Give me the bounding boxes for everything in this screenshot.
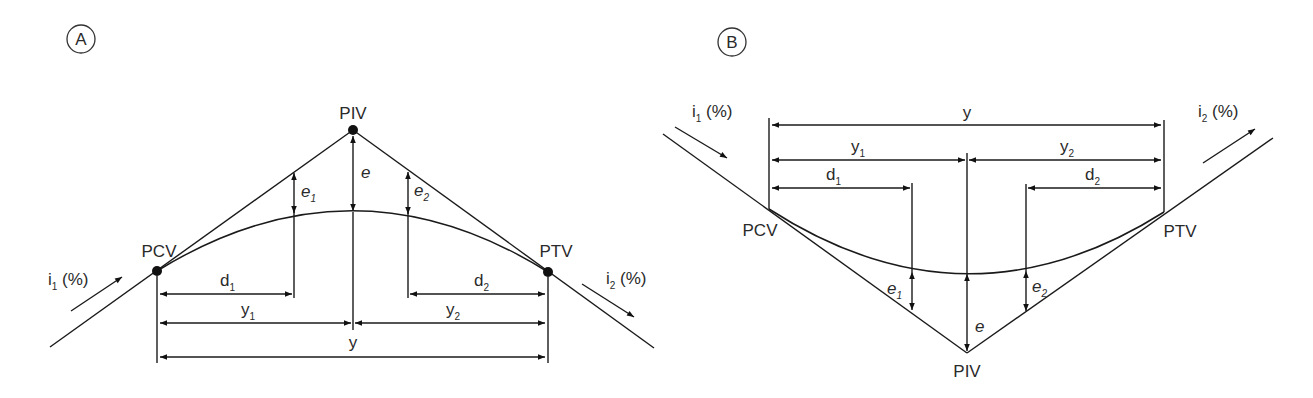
i2-grade-label: i2 (%) [606,269,647,291]
i2-grade-arrow [1203,129,1255,163]
pcv-label: PCV [743,221,779,240]
e2-label: e2 [1032,277,1047,299]
panel-badge-b: B [718,28,746,56]
ptv-label: PTV [1163,222,1197,241]
piv-label: PIV [953,362,981,381]
ptv-label: PTV [539,242,573,261]
pcv-point [152,266,162,276]
d2-label: d2 [1085,165,1100,187]
e-label: e [361,163,370,182]
e-label: e [975,317,984,336]
piv-point [348,125,358,135]
ptv-point [543,267,553,277]
y2-label: y2 [446,300,461,322]
panel-badge-a: A [67,25,95,53]
vertical-curve-diagram: A PIV PCV PTV e e1 e2 d1 d2 [0,0,1313,398]
y-label: y [349,333,358,352]
e1-label: e1 [887,279,902,301]
panel-a-crest-curve: A PIV PCV PTV e e1 e2 d1 d2 [48,25,654,363]
y-label: y [963,103,972,122]
i1-grade-label: i1 (%) [48,270,89,292]
d1-label: d1 [826,165,841,187]
incoming-tangent [50,130,353,347]
d1-label: d1 [220,271,235,293]
y1-label: y1 [851,137,866,159]
i1-grade-label: i1 (%) [692,102,733,124]
i1-grade-arrow [675,127,727,158]
e1-label: e1 [301,182,316,204]
i2-grade-arrow [582,284,634,317]
outgoing-tangent [967,138,1273,353]
d2-label: d2 [474,271,489,293]
outgoing-tangent [353,130,654,348]
svg-text:A: A [75,30,87,49]
incoming-tangent [663,134,967,353]
y1-label: y1 [241,300,256,322]
panel-b-sag-curve: B PIV PCV PTV e e1 e2 y y1 y2 d1 d2 [663,28,1273,381]
i2-grade-label: i2 (%) [1198,102,1239,124]
piv-label: PIV [339,104,367,123]
pcv-label: PCV [142,242,178,261]
svg-text:B: B [726,33,737,52]
y2-label: y2 [1060,137,1075,159]
